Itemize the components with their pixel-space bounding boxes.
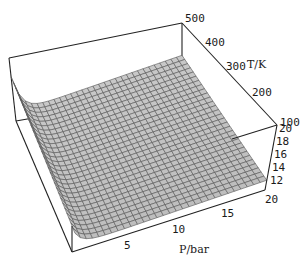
z-tick-20: 20 (279, 122, 292, 135)
x-axis-label: P/bar (179, 243, 210, 256)
y-tick-500: 500 (185, 12, 205, 25)
z-tick-14: 14 (272, 161, 286, 174)
z-tick-16: 16 (274, 148, 287, 161)
x-tick-20: 20 (265, 193, 278, 206)
z-tick-12: 12 (270, 174, 283, 187)
x-tick-15: 15 (221, 207, 234, 220)
y-tick-200: 200 (252, 86, 272, 99)
x-tick-5: 5 (124, 239, 131, 252)
y-axis-label: T/K (247, 58, 267, 71)
y-tick-400: 400 (205, 36, 225, 49)
z-tick-18: 18 (276, 135, 289, 148)
y-tick-300: 300 (226, 60, 246, 73)
x-tick-10: 10 (172, 223, 185, 236)
surface-plot: 500 400 300 T/K 200 100 20 18 16 14 12 5… (0, 0, 301, 263)
